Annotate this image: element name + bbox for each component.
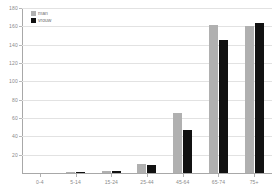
x-tick-mark [76,174,77,177]
bar-vrouw-65-74 [219,40,228,173]
y-tick-label: 140 [9,42,18,48]
legend-swatch-man-icon [31,11,36,16]
x-tick-mark [40,174,41,177]
y-tick-label: 80 [12,97,18,103]
x-tick-mark [111,174,112,177]
legend-swatch-vrouw-icon [31,18,36,23]
bar-group [129,8,165,173]
bar-chart: 20406080100120140160180 0-45-1415-2425-4… [0,0,275,196]
x-tick-mark [183,174,184,177]
x-tick-label: 0-4 [36,179,44,185]
bar-group [165,8,201,173]
bar-group [58,8,94,173]
y-tick-label: 120 [9,60,18,66]
bar-man-75+ [245,26,254,173]
bar-man-15-24 [102,171,111,173]
legend-label-man: man [38,10,48,16]
bar-vrouw-45-64 [183,130,192,173]
bar-vrouw-75+ [255,23,264,173]
x-tick-label: 15-24 [105,179,118,185]
x-tick-mark [254,174,255,177]
y-tick-label: 60 [12,115,18,121]
bar-vrouw-25-44 [147,165,156,173]
legend-item-vrouw: vrouw [31,17,51,23]
bar-vrouw-15-24 [112,171,121,173]
x-tick-label: 5-14 [70,179,80,185]
legend-item-man: man [31,10,51,16]
bar-group [22,8,58,173]
bar-group [201,8,237,173]
bar-man-65-74 [209,25,218,174]
y-tick-label: 100 [9,78,18,84]
y-tick-label: 160 [9,23,18,29]
x-tick-label: 25-44 [140,179,153,185]
chart-legend: man vrouw [31,10,51,24]
x-tick-label: 75+ [250,179,259,185]
y-tick-label: 40 [12,133,18,139]
bar-group [236,8,272,173]
bar-group [93,8,129,173]
y-tick-label: 20 [12,152,18,158]
legend-label-vrouw: vrouw [38,17,51,23]
x-tick-mark [147,174,148,177]
bar-vrouw-5-14 [76,172,85,173]
plot-area [22,8,272,173]
bar-man-45-64 [173,113,182,174]
y-tick-label: 180 [9,5,18,11]
bar-man-5-14 [66,172,75,173]
x-tick-label: 45-64 [176,179,189,185]
x-tick-label: 65-74 [212,179,225,185]
bar-man-25-44 [137,164,146,173]
x-tick-mark [218,174,219,177]
